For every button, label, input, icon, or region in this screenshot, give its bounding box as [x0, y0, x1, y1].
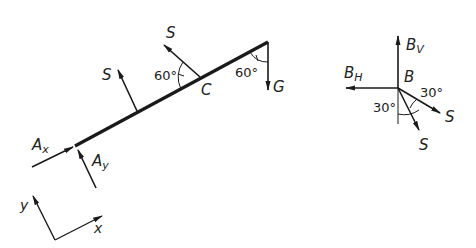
coordinate-axes: y x	[19, 196, 103, 240]
free-body-diagram: S S 60° C 60° G Ax Ay y x BV BH B 30° 30…	[0, 0, 476, 248]
label-angle-B-left: 30°	[373, 100, 396, 115]
angle-arc-tip	[250, 52, 268, 62]
label-angle-B-right: 30°	[420, 85, 443, 100]
label-B: B	[404, 68, 414, 86]
beam: S S 60° C 60° G Ax Ay	[31, 24, 285, 188]
label-Ax: Ax	[31, 136, 49, 156]
y-axis-arrow	[33, 196, 55, 240]
label-y: y	[19, 197, 29, 213]
label-G: G	[273, 78, 285, 96]
node-B: BV BH B 30° 30° S S	[344, 36, 455, 154]
label-S-top: S	[166, 24, 176, 42]
label-S-right: S	[445, 108, 455, 126]
label-Ay: Ay	[91, 152, 109, 172]
label-C: C	[201, 81, 212, 99]
label-S-left: S	[102, 66, 112, 84]
label-x: x	[93, 220, 103, 236]
angle-arc-B-right	[410, 99, 417, 108]
label-angle-C: 60°	[154, 68, 177, 83]
beam-bar	[75, 42, 268, 146]
label-Bv: BV	[406, 36, 425, 56]
label-angle-tip: 60°	[235, 65, 258, 80]
force-S-left-arrow	[118, 70, 137, 111]
label-Bh: BH	[344, 64, 363, 84]
label-S-bottom: S	[419, 136, 429, 154]
